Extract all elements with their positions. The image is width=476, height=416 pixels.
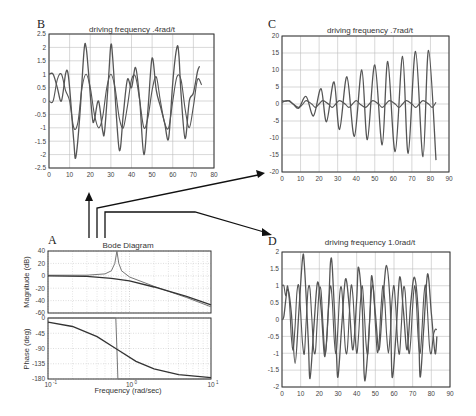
y-tick-label: -5 [273,117,279,124]
y-tick-label: -90 [36,345,46,352]
bode-ylabel-magnitude: Magnitude (dB) [22,256,31,308]
y-tick-label: 0.5 [37,84,46,91]
y-tick-label: -1 [273,350,279,357]
y-tick-label: -180 [32,375,45,382]
x-tick-label: 60 [390,175,398,182]
x-tick-label: 0 [280,175,284,182]
x-tick-label: 60 [390,390,398,397]
x-tick-label: 70 [409,390,417,397]
y-tick-label: 40 [38,247,46,254]
panel-label-a: A [48,233,57,247]
y-tick-label: -2 [40,151,46,158]
x-tick-label: 10 [297,390,305,397]
y-tick-label: 0.5 [270,299,279,306]
x-tick-label: 70 [408,175,416,182]
y-tick-label: -40 [36,297,46,304]
x-tick-exponent: 1 [216,380,219,385]
y-tick-label: 20 [38,260,46,267]
y-tick-label: 5 [275,83,279,90]
y-tick-label: 20 [272,32,280,39]
x-tick-label: 0 [47,171,51,178]
chart-b-title: driving frequency .4rad/t [89,25,176,34]
x-tick-label: 40 [353,390,361,397]
y-tick-label: -2 [273,383,279,390]
y-tick-label: -45 [36,330,46,337]
y-tick-label: -2.5 [35,164,47,171]
y-tick-label: 0 [42,97,46,104]
y-tick-label: -20 [36,285,46,292]
x-tick-label: 50 [371,175,379,182]
panel-label-b: B [37,17,45,31]
x-tick-label: 30 [107,171,115,178]
y-tick-label: 15 [272,49,280,56]
y-tick-label: 1.5 [270,265,279,272]
x-tick-label: 70 [190,171,198,178]
arrow-to-c [97,175,258,238]
plot-c-driving-07: 010203040506070809020151050-5-10-15-20 [270,32,453,182]
chart-c-title: driving frequency .7rad/t [327,26,414,35]
x-tick-label: 90 [445,175,453,182]
y-tick-label: -0.5 [35,111,47,118]
y-tick-label: 0 [275,100,279,107]
y-tick-label: -1.5 [35,138,47,145]
bode-phase-plot: 0-45-90-135-18010-1100101 [32,314,219,388]
x-tick-label: 20 [315,175,323,182]
x-tick-label: 10 [44,381,52,388]
x-tick-label: 80 [428,390,436,397]
arrowhead-down-right-icon [262,228,272,236]
plot-d-driving-10: 010203040506070809021.510.50-0.5-1-1.5-2 [268,248,454,397]
x-tick-label: 10 [66,171,74,178]
arrowhead-right-icon [256,170,265,178]
x-tick-label: 40 [353,175,361,182]
x-tick-label: 80 [210,171,218,178]
arrow-to-d [105,212,264,238]
y-tick-label: 1.5 [37,57,46,64]
y-tick-label: -0.5 [268,333,280,340]
x-tick-label: 50 [149,171,157,178]
arrowhead-up-icon [85,192,93,201]
series-damped [48,322,211,378]
x-tick-label: 30 [334,175,342,182]
x-tick-label: 10 [297,175,305,182]
y-tick-label: -20 [270,168,280,175]
y-tick-label: 0 [41,314,45,321]
y-tick-label: 0 [275,316,279,323]
x-tick-label: 50 [372,390,380,397]
y-tick-label: 2 [275,248,279,255]
y-tick-label: -135 [32,360,45,367]
x-tick-exponent: -1 [53,380,57,385]
bode-ylabel-phase: Phase (deg) [22,328,31,369]
x-tick-exponent: 0 [135,380,138,385]
x-tick-label: 20 [316,390,324,397]
panel-label-d: D [268,234,277,248]
panel-label-c: C [268,17,276,31]
x-tick-label: 90 [446,390,454,397]
series-damped [48,276,211,305]
x-tick-label: 10 [207,381,215,388]
y-tick-label: 1 [275,282,279,289]
chart-d-title: driving frequency 1.0rad/t [325,238,416,247]
y-tick-label: -15 [270,151,280,158]
y-tick-label: 1 [42,71,46,78]
bode-magnitude-plot: 40200-20-40-60 [36,247,211,316]
x-tick-label: 0 [280,390,284,397]
x-tick-label: 40 [128,171,136,178]
y-tick-label: 2.5 [37,30,46,37]
x-tick-label: 80 [427,175,435,182]
x-tick-label: 60 [169,171,177,178]
x-tick-label: 20 [87,171,95,178]
bode-title: Bode Diagram [102,241,153,250]
y-tick-label: -1 [40,124,46,131]
y-tick-label: -10 [270,134,280,141]
y-tick-label: 2 [42,44,46,51]
figure-canvas: B C D A driving frequency .4rad/t drivin… [0,0,476,416]
x-tick-label: 30 [334,390,342,397]
y-tick-label: 10 [272,66,280,73]
plot-b-driving-04: 010203040506070802.521.510.50-0.5-1-1.5-… [35,30,218,178]
y-tick-label: -1.5 [268,366,280,373]
y-tick-label: 0 [41,272,45,279]
x-tick-label: 10 [126,381,134,388]
